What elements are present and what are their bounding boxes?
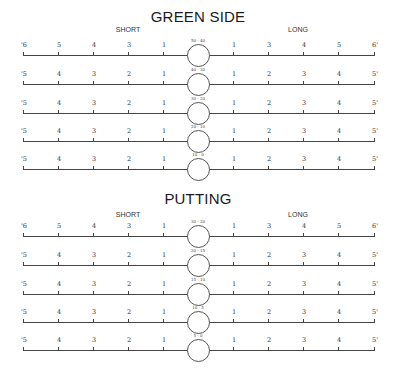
short-distance-label: '5 [21, 336, 27, 344]
tick-mark [233, 52, 234, 56]
tick-mark [128, 347, 129, 351]
range-label: 20 - 15 [191, 248, 205, 253]
tick-mark [268, 233, 269, 237]
tick-mark [163, 233, 164, 237]
tick-mark [93, 166, 94, 170]
long-distance-label: 2 [267, 127, 271, 135]
tick-mark [23, 81, 24, 85]
short-distance-label: 4 [57, 251, 61, 259]
long-distance-label: 1 [232, 251, 236, 259]
long-distance-label: 3 [302, 155, 306, 163]
long-distance-label: 5' [372, 308, 378, 316]
tick-mark [268, 81, 269, 85]
tick-mark [163, 110, 164, 114]
tick-mark [233, 233, 234, 237]
tick-mark [128, 291, 129, 295]
tick-mark [23, 52, 24, 56]
short-distance-label: 3 [92, 155, 96, 163]
short-distance-label: '6 [21, 222, 27, 230]
tick-mark [303, 166, 304, 170]
tick-mark [338, 52, 339, 56]
long-distance-label: 6' [372, 41, 378, 49]
short-distance-label: 2 [127, 280, 131, 288]
long-distance-label: 4 [337, 127, 341, 135]
short-label: SHORT [116, 211, 140, 218]
long-distance-label: 2 [267, 336, 271, 344]
long-distance-label: 2 [267, 251, 271, 259]
short-distance-label: 3 [92, 308, 96, 316]
long-distance-label: 1 [232, 280, 236, 288]
long-distance-label: 1 [232, 127, 236, 135]
tick-mark [233, 291, 234, 295]
long-distance-label: 6' [372, 222, 378, 230]
tick-mark [233, 347, 234, 351]
long-distance-label: 1 [232, 308, 236, 316]
tick-mark [128, 262, 129, 266]
tick-mark [303, 262, 304, 266]
tick-mark [374, 166, 375, 170]
long-distance-label: 3 [302, 127, 306, 135]
short-distance-label: '5 [21, 99, 27, 107]
short-distance-label: '6 [21, 41, 27, 49]
short-distance-label: '5 [21, 127, 27, 135]
tick-mark [93, 319, 94, 323]
long-distance-label: 3 [302, 280, 306, 288]
tick-mark [374, 81, 375, 85]
range-label: 30 - 20 [191, 96, 205, 101]
long-distance-label: 4 [337, 280, 341, 288]
tick-mark [163, 347, 164, 351]
tick-mark [58, 110, 59, 114]
long-distance-label: 4 [302, 41, 306, 49]
tick-mark [338, 291, 339, 295]
long-distance-label: 3 [302, 308, 306, 316]
tick-mark [93, 110, 94, 114]
tick-mark [93, 138, 94, 142]
tick-mark [93, 81, 94, 85]
tick-mark [23, 233, 24, 237]
tick-mark [163, 291, 164, 295]
long-distance-label: 4 [337, 308, 341, 316]
tick-mark [268, 319, 269, 323]
long-distance-label: 5' [372, 280, 378, 288]
tick-mark [163, 262, 164, 266]
long-distance-label: 5' [372, 155, 378, 163]
tick-mark [23, 110, 24, 114]
long-distance-label: 5 [337, 222, 341, 230]
long-distance-label: 3 [302, 70, 306, 78]
short-distance-label: 2 [127, 155, 131, 163]
range-label: 50 - 40 [191, 38, 205, 43]
tick-mark [338, 138, 339, 142]
short-distance-label: 3 [92, 251, 96, 259]
long-distance-label: 1 [232, 41, 236, 49]
tick-mark [338, 110, 339, 114]
tick-mark [163, 81, 164, 85]
tick-mark [58, 319, 59, 323]
tick-mark [93, 233, 94, 237]
long-distance-label: 2 [267, 280, 271, 288]
short-distance-label: 3 [127, 41, 131, 49]
tick-mark [303, 81, 304, 85]
tick-mark [233, 81, 234, 85]
short-distance-label: 1 [162, 127, 166, 135]
tick-mark [58, 138, 59, 142]
long-distance-label: 2 [267, 99, 271, 107]
long-distance-label: 4 [337, 70, 341, 78]
tick-mark [303, 319, 304, 323]
short-distance-label: '5 [21, 308, 27, 316]
short-distance-label: 2 [127, 251, 131, 259]
short-distance-label: 5 [57, 222, 61, 230]
tick-mark [163, 138, 164, 142]
tick-mark [128, 81, 129, 85]
tick-mark [338, 347, 339, 351]
distance-row: '5432112345'5 - 0 [0, 0, 396, 30]
short-distance-label: 1 [162, 99, 166, 107]
long-distance-label: 3 [267, 41, 271, 49]
short-distance-label: 4 [92, 222, 96, 230]
short-distance-label: '5 [21, 155, 27, 163]
long-distance-label: 4 [337, 336, 341, 344]
tick-mark [93, 52, 94, 56]
long-distance-label: 1 [232, 222, 236, 230]
long-distance-label: 3 [302, 336, 306, 344]
tick-mark [128, 110, 129, 114]
tick-mark [58, 81, 59, 85]
